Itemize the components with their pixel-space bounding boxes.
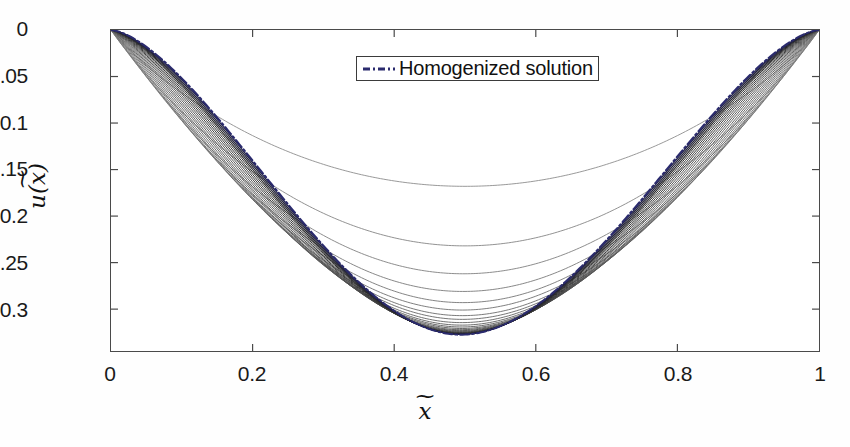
y-tick-label: -0.1 <box>0 111 28 135</box>
legend-box: Homogenized solution <box>356 56 599 81</box>
x-tick-label: 0.2 <box>238 362 266 386</box>
x-tick-label: 0.8 <box>664 362 692 386</box>
curve-eps-solution <box>111 30 819 186</box>
y-tick-label: -0.05 <box>0 64 28 88</box>
tilde-accent-icon: ~ <box>11 168 32 190</box>
y-axis-label-variable: ~x <box>24 172 50 185</box>
x-axis-label-variable: ~x <box>419 398 432 424</box>
legend-line-sample-homogenized <box>362 63 396 75</box>
y-tick-label: -0.3 <box>0 298 28 322</box>
x-axis-label: ~x <box>0 398 850 424</box>
x-tick-label: 1 <box>814 362 825 386</box>
y-axis-label: u(~x) <box>7 163 67 209</box>
legend-label-homogenized: Homogenized solution <box>399 57 593 80</box>
x-tick-label: 0.4 <box>380 362 408 386</box>
tilde-accent-icon: ~ <box>414 385 436 406</box>
y-tick-label: 0 <box>17 17 28 41</box>
y-tick-label: -0.25 <box>0 251 28 275</box>
x-tick-label: 0.6 <box>522 362 550 386</box>
figure-canvas: 0-0.05-0.1-0.15-0.2-0.25-0.3 00.20.40.60… <box>0 0 850 447</box>
x-tick-label: 0 <box>104 362 115 386</box>
